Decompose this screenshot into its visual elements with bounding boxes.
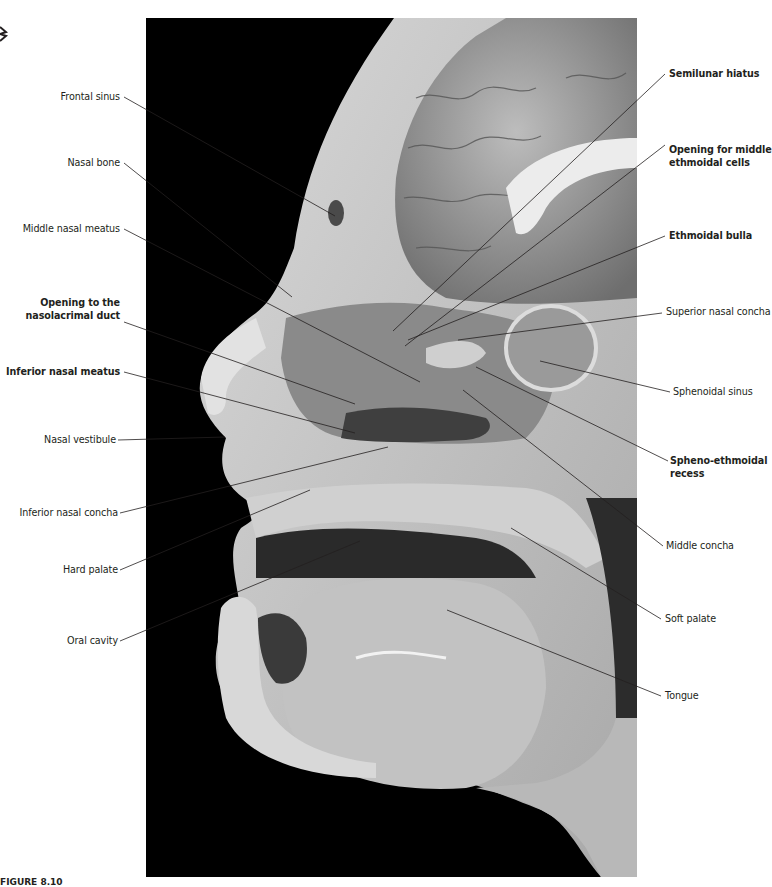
corner-arrow-icon (0, 24, 10, 44)
label-hard-palate: Hard palate (63, 564, 118, 577)
label-spheno-ethmoidal-recess: Spheno-ethmoidal recess (670, 455, 767, 480)
label-soft-palate: Soft palate (665, 613, 716, 626)
label-line-1: Opening to the (26, 297, 120, 310)
label-nasal-vestibule: Nasal vestibule (44, 434, 116, 447)
label-inferior-nasal-concha: Inferior nasal concha (19, 507, 118, 520)
label-line-2: nasolacrimal duct (26, 310, 120, 323)
label-line-2: ethmoidal cells (669, 157, 772, 170)
label-oral-cavity: Oral cavity (67, 635, 118, 648)
sagittal-head-photograph (146, 18, 637, 877)
label-middle-concha: Middle concha (666, 540, 734, 553)
label-frontal-sinus: Frontal sinus (61, 91, 120, 104)
label-line-1: Opening for middle (669, 144, 772, 157)
label-tongue: Tongue (665, 690, 699, 703)
label-opening-middle-ethmoidal: Opening for middle ethmoidal cells (669, 144, 772, 169)
label-superior-nasal-concha: Superior nasal concha (666, 306, 771, 319)
label-inferior-nasal-meatus: Inferior nasal meatus (6, 366, 120, 379)
label-nasal-bone: Nasal bone (67, 157, 120, 170)
label-opening-nasolacrimal-duct: Opening to the nasolacrimal duct (26, 297, 120, 322)
label-line-2: recess (670, 468, 767, 481)
figure-caption: FIGURE 8.10 (0, 877, 63, 887)
label-line-1: Spheno-ethmoidal (670, 455, 767, 468)
figure-number: FIGURE 8.10 (0, 877, 63, 887)
label-sphenoidal-sinus: Sphenoidal sinus (673, 386, 753, 399)
label-middle-nasal-meatus: Middle nasal meatus (23, 223, 120, 236)
label-semilunar-hiatus: Semilunar hiatus (669, 68, 759, 81)
label-ethmoidal-bulla: Ethmoidal bulla (669, 230, 752, 243)
